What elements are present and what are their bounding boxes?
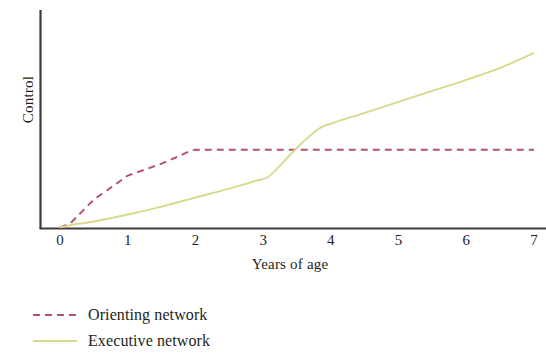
x-tick-label-5: 5 bbox=[386, 232, 412, 249]
x-tick-label-0: 0 bbox=[47, 232, 73, 249]
legend-item-orienting: Orienting network bbox=[32, 302, 332, 328]
series-line-orienting-network bbox=[60, 150, 534, 228]
legend-item-executive: Executive network bbox=[32, 328, 332, 354]
legend-label-executive: Executive network bbox=[88, 332, 210, 350]
x-tick-label-2: 2 bbox=[182, 232, 208, 249]
chart-legend: Orienting network Executive network bbox=[32, 302, 332, 354]
legend-swatch-executive-solid-line bbox=[32, 335, 78, 347]
x-tick-label-1: 1 bbox=[115, 232, 141, 249]
series-line-executive-network bbox=[60, 53, 534, 228]
x-tick-label-3: 3 bbox=[250, 232, 276, 249]
x-tick-label-7: 7 bbox=[521, 232, 546, 249]
legend-label-orienting: Orienting network bbox=[88, 306, 207, 324]
legend-swatch-orienting-dashed-line bbox=[32, 309, 78, 321]
series-layer bbox=[60, 53, 534, 228]
x-tick-label-4: 4 bbox=[318, 232, 344, 249]
x-tick-label-6: 6 bbox=[453, 232, 479, 249]
x-axis-title: Years of age bbox=[180, 256, 400, 273]
chart-figure: Control Years of age 01234567 Orienting … bbox=[0, 0, 546, 360]
y-axis-title: Control bbox=[20, 63, 37, 137]
